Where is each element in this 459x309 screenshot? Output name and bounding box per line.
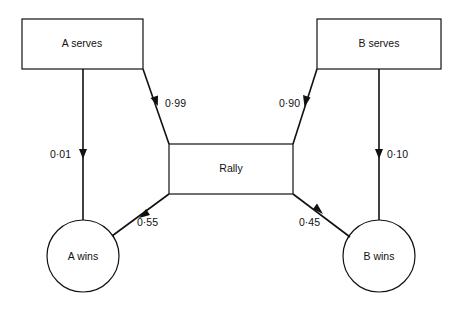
arrow-down-icon (79, 149, 87, 159)
edge-a-serves-to-a-wins: 0·01 (50, 69, 87, 220)
edge-rally-to-b-wins: 0·45 (293, 194, 350, 237)
node-a-serves-label: A serves (62, 37, 102, 49)
node-a-serves: A serves (22, 19, 143, 69)
edge-label-rally-a: 0·55 (137, 216, 158, 228)
node-b-wins-label: B wins (364, 250, 395, 262)
edge-label-b-win: 0·10 (387, 148, 408, 160)
node-b-wins: B wins (343, 220, 415, 292)
edge-b-serves-to-b-wins: 0·10 (375, 69, 408, 220)
edge-b-serves-to-rally: 0·90 (279, 69, 317, 144)
node-a-wins-label: A wins (68, 250, 98, 262)
edge-label-a-rally: 0·99 (165, 97, 186, 109)
edge-label-rally-b: 0·45 (299, 216, 320, 228)
node-b-serves: B serves (317, 19, 441, 69)
node-a-wins: A wins (47, 220, 119, 292)
edge-rally-to-a-wins: 0·55 (112, 194, 169, 236)
arrow-icon (303, 95, 311, 107)
node-b-serves-label: B serves (359, 37, 400, 49)
arrow-icon (151, 96, 159, 107)
edge-label-b-rally: 0·90 (279, 97, 300, 109)
node-rally-label: Rally (219, 162, 243, 174)
serve-rally-diagram: A serves B serves Rally A wins B wins 0·… (0, 0, 459, 309)
edge-label-a-win: 0·01 (50, 148, 71, 160)
node-rally: Rally (169, 144, 293, 194)
arrow-down-icon (375, 149, 383, 159)
edge-a-serves-to-rally: 0·99 (143, 69, 186, 144)
